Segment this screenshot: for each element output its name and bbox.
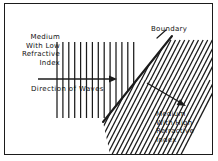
label-high-line-3: Refractive bbox=[156, 127, 212, 136]
incident-direction-arrow bbox=[38, 76, 117, 83]
label-high-refractive-index-medium: Medium With High Refractive Index bbox=[156, 110, 212, 144]
refraction-diagram-figure: Medium With Low Refractive Index Directi… bbox=[0, 0, 218, 161]
label-boundary: Boundary bbox=[151, 25, 187, 34]
label-high-line-1: Medium bbox=[156, 110, 212, 119]
label-low-line-3: Refractive bbox=[8, 50, 60, 59]
label-low-line-2: With Low bbox=[8, 42, 60, 51]
label-high-line-2: With High bbox=[156, 119, 212, 128]
label-direction-of-waves: Direction of Waves bbox=[31, 85, 104, 94]
label-low-refractive-index-medium: Medium With Low Refractive Index bbox=[8, 33, 60, 67]
label-low-line-1: Medium bbox=[8, 33, 60, 42]
label-high-line-4: Index bbox=[156, 136, 212, 145]
label-low-line-4: Index bbox=[8, 59, 60, 68]
